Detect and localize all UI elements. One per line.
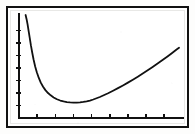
plot-canvas: [8, 8, 191, 130]
figure-screenshot: [0, 0, 195, 134]
plot-frame: [6, 6, 189, 128]
data-series-curve: [26, 15, 179, 103]
